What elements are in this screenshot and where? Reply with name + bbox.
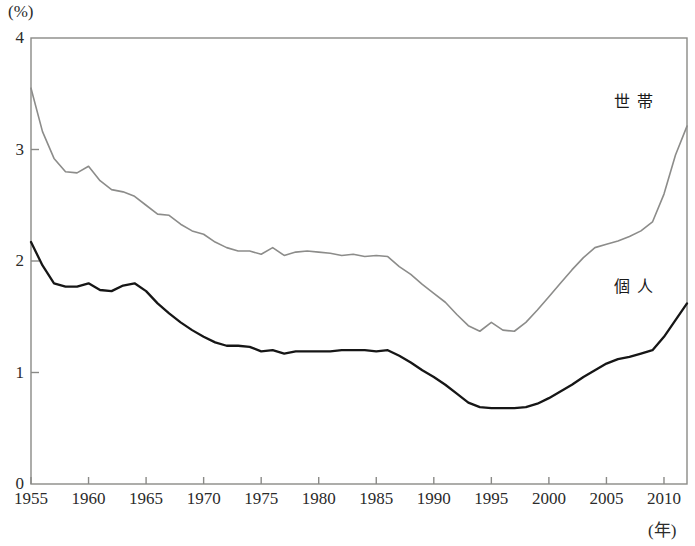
x-tick-label: 1980 [289,489,349,509]
chart-plot-area [0,0,695,546]
series-line-individual [31,242,687,408]
series-line-household [31,88,687,331]
y-tick-label: 2 [4,251,24,271]
x-tick-label: 1955 [1,489,61,509]
y-tick-label: 4 [4,28,24,48]
plot-frame [31,38,687,484]
x-tick-label: 1970 [174,489,234,509]
x-tick-label: 1960 [59,489,119,509]
y-axis-unit-label: (%) [8,2,33,22]
axis-ticks [31,150,664,485]
y-tick-label: 1 [4,363,24,383]
axis-frame [31,38,687,484]
x-tick-label: 1965 [116,489,176,509]
x-tick-label: 1995 [461,489,521,509]
x-tick-label: 2000 [519,489,579,509]
series-label-household: 世帯 [614,88,660,112]
chart-container: (%) (年) 01234 19551960196519701975198019… [0,0,695,546]
x-tick-label: 1975 [231,489,291,509]
x-tick-label: 1990 [404,489,464,509]
x-tick-label: 2010 [634,489,694,509]
series-paths [31,88,687,408]
x-axis-unit-label: (年) [648,516,676,541]
series-label-individual: 個人 [614,273,660,297]
y-tick-label: 3 [4,140,24,160]
x-tick-label: 1985 [346,489,406,509]
x-tick-label: 2005 [576,489,636,509]
